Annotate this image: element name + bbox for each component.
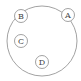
diagram-svg: A B C D — [0, 0, 81, 81]
node-c: C — [15, 35, 28, 48]
node-a: A — [62, 9, 75, 22]
node-d: D — [36, 56, 49, 69]
diagram-canvas: A B C D — [0, 0, 81, 81]
node-c-label: C — [18, 37, 24, 46]
node-d-label: D — [39, 58, 45, 67]
node-b: B — [15, 10, 28, 23]
node-b-label: B — [18, 12, 24, 21]
node-a-label: A — [64, 11, 71, 20]
